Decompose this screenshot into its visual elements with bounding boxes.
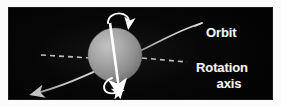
figure-frame: Orbit Rotation axis [0, 0, 281, 107]
rotation-axis-label: Rotation axis [196, 60, 262, 92]
dashed-axis-right [142, 58, 187, 62]
dashed-axis-left [41, 55, 91, 58]
rotation-axis-label-line-1: Rotation [196, 60, 262, 76]
rotation-axis-label-line-2: axis [196, 76, 262, 92]
orbit-label: Orbit [206, 25, 237, 40]
diagram-canvas: Orbit Rotation axis [8, 7, 273, 100]
spin-arrow-top [108, 13, 129, 24]
